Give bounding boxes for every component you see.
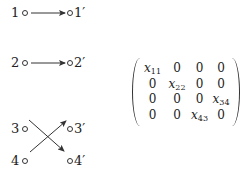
- matrix-cell: 0: [140, 92, 165, 108]
- permutation-matrix: x110000x2200000x3400x430: [132, 58, 240, 126]
- matrix-cell: 0: [189, 61, 210, 77]
- matrix-cell: 0: [140, 77, 165, 93]
- right-parenthesis: [231, 58, 240, 126]
- matrix-cell: 0: [210, 61, 232, 77]
- matrix-variable: x: [191, 108, 198, 122]
- matrix-subscript: 11: [151, 67, 161, 76]
- matrix-cell: 0: [210, 77, 232, 93]
- matrix-cell: x22: [165, 77, 189, 93]
- matrix-cell: 0: [189, 92, 210, 108]
- matrix-variable: x: [144, 61, 151, 75]
- matrix-cell: x11: [140, 61, 165, 77]
- matrix-cell: x43: [189, 108, 210, 124]
- matrix-grid: x110000x2200000x3400x430: [140, 61, 232, 123]
- matrix-cell: 0: [165, 108, 189, 124]
- matrix-cell: 0: [189, 77, 210, 93]
- matrix-subscript: 34: [219, 98, 229, 107]
- matrix-cell: 0: [165, 92, 189, 108]
- matrix-cell: 0: [210, 108, 232, 124]
- matrix-cell: x34: [210, 92, 232, 108]
- edge-3-to-4prime: [29, 120, 64, 151]
- matrix-cell: 0: [165, 61, 189, 77]
- matrix-subscript: 43: [198, 114, 208, 123]
- matrix-cell: 0: [140, 108, 165, 124]
- matrix-subscript: 22: [175, 83, 185, 92]
